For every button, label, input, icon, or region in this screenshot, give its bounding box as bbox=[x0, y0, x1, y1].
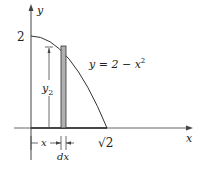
x-dimension-arrow-icon bbox=[56, 141, 61, 144]
y-axis-arrow-icon bbox=[29, 4, 34, 11]
x-intercept-label: √2 bbox=[98, 136, 113, 150]
dx-arrow-icon bbox=[66, 141, 71, 144]
y-axis-label: y bbox=[36, 4, 44, 17]
x-axis-label: x bbox=[186, 132, 193, 145]
curve-equation-label: y = 2 − x2 bbox=[88, 57, 145, 71]
y2-arrow-icon bbox=[48, 48, 51, 53]
area-diagram: x y y2 2 y = 2 − x2 √2 x dx bbox=[0, 0, 198, 172]
x-distance-label: x bbox=[41, 137, 47, 148]
strip-width-label: dx bbox=[57, 151, 69, 162]
x-axis-arrow-icon bbox=[186, 126, 193, 131]
y-intercept-label: 2 bbox=[17, 30, 25, 44]
area-strip bbox=[61, 46, 66, 128]
